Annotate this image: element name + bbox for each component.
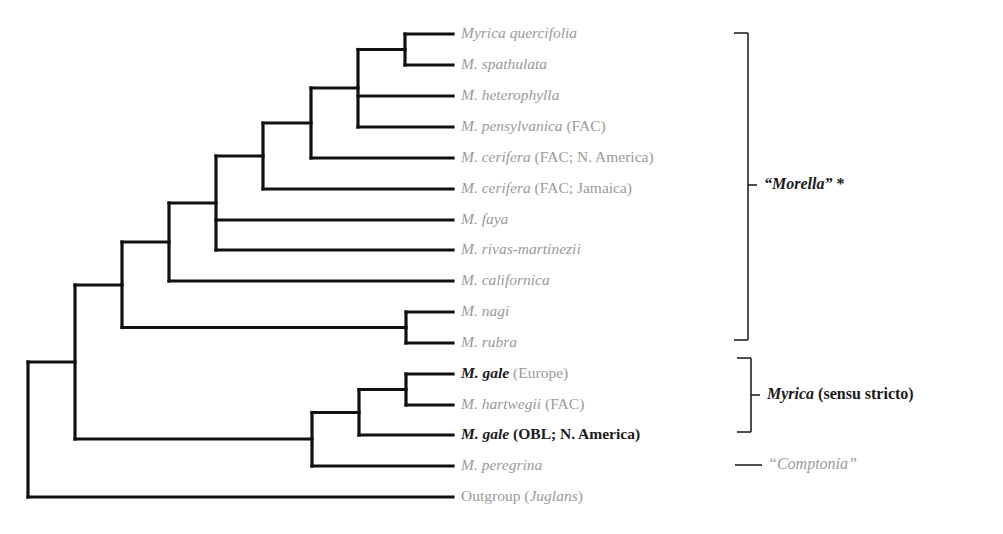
species-name: M. californica (461, 271, 550, 288)
species-name: M. gale (461, 364, 509, 381)
species-annotation: (FAC; N. America) (531, 148, 654, 165)
leaf-label: M. peregrina (461, 456, 542, 474)
leaf-label: M. heterophylla (461, 86, 559, 104)
tree-branches (28, 34, 453, 497)
species-name: M. cerifera (461, 148, 531, 165)
leaf-label: M. hartwegii (FAC) (461, 395, 584, 413)
species-annotation: (OBL; N. America) (509, 425, 640, 442)
species-annotation: (FAC; Jamaica) (531, 179, 632, 196)
leaf-label: M. cerifera (FAC; Jamaica) (461, 179, 632, 197)
species-name: M. cerifera (461, 179, 531, 196)
species-name: M. rubra (461, 333, 517, 350)
leaf-label: M. pensylvanica (FAC) (461, 117, 606, 135)
species-name: M. spathulata (461, 55, 547, 72)
species-annotation: (Europe) (509, 364, 568, 381)
species-annotation: (FAC) (563, 117, 606, 134)
species-annotation: (FAC) (541, 395, 584, 412)
species-name: M. faya (461, 210, 508, 227)
leaf-label: M. cerifera (FAC; N. America) (461, 148, 654, 166)
leaf-label: M. gale (Europe) (461, 364, 568, 382)
species-name: M. rivas-martinezii (461, 240, 581, 257)
leaf-label: M. faya (461, 210, 508, 228)
leaf-label: M. rivas-martinezii (461, 240, 581, 258)
species-name: M. hartwegii (461, 395, 541, 412)
leaf-label: M. gale (OBL; N. America) (461, 425, 640, 443)
leaf-label: M. nagi (461, 302, 509, 320)
phylogenetic-tree (0, 0, 1003, 534)
clade-label-comptonia: “Comptonia” (768, 455, 857, 473)
clade-brackets (734, 33, 762, 465)
species-name: M. gale (461, 425, 509, 442)
species-name: M. heterophylla (461, 86, 559, 103)
species-name: M. nagi (461, 302, 509, 319)
leaf-label: M. rubra (461, 333, 517, 351)
species-name: M. peregrina (461, 456, 542, 473)
leaf-label: Outgroup (Juglans) (461, 487, 583, 505)
clade-label-myrica-s-s-: Myrica (sensu stricto) (767, 385, 914, 403)
leaf-label: Myrica quercifolia (461, 24, 577, 42)
species-name: M. pensylvanica (461, 117, 563, 134)
clade-label-morella: “Morella” * (764, 175, 844, 193)
leaf-label: M. californica (461, 271, 550, 289)
leaf-label: M. spathulata (461, 55, 547, 73)
species-name: Myrica quercifolia (461, 24, 577, 41)
